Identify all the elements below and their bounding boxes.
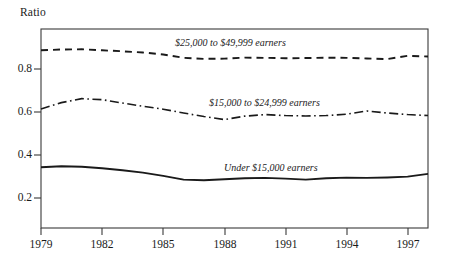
x-tick-label-1994: 1994	[325, 238, 369, 250]
x-tick-label-1982: 1982	[80, 238, 124, 250]
x-tick-label-1979: 1979	[19, 238, 63, 250]
x-tick-label-1997: 1997	[386, 238, 430, 250]
x-axis-ticks	[41, 228, 408, 235]
x-tick-label-1991: 1991	[264, 238, 308, 250]
y-tick-label-0_2: 0.2	[6, 191, 32, 203]
series-line-upper-25000-49999	[41, 49, 428, 59]
series-label-25000-49999: $25,000 to $49,999 earners	[173, 37, 288, 48]
x-tick-label-1985: 1985	[141, 238, 185, 250]
y-tick-label-0_8: 0.8	[6, 62, 32, 74]
series-lines	[41, 49, 428, 180]
y-tick-label-0_6: 0.6	[6, 105, 32, 117]
series-label-15000-24999: $15,000 to $24,999 earners	[207, 97, 322, 108]
y-tick-label-0_4: 0.4	[6, 148, 32, 160]
series-label-under-15000: Under $15,000 earners	[222, 162, 320, 173]
chart-figure: Ratio 0.8 0.6 0.4 0.2 1979 1982	[0, 0, 450, 267]
x-tick-label-1988: 1988	[203, 238, 247, 250]
y-axis-ticks	[34, 69, 41, 198]
